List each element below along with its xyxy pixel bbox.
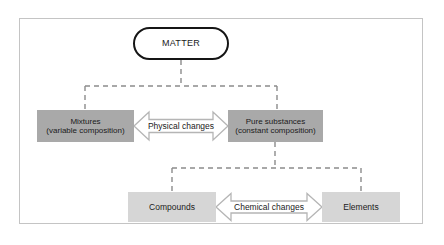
node-compounds[interactable] xyxy=(128,192,216,222)
node-elements[interactable] xyxy=(322,192,400,222)
connector-pure-branch xyxy=(172,142,361,192)
node-pure-substances[interactable] xyxy=(228,110,323,142)
physical-changes-arrow xyxy=(134,112,228,140)
node-mixtures[interactable] xyxy=(37,110,134,142)
connector-matter-branch xyxy=(85,60,277,110)
chemical-changes-arrow xyxy=(216,194,322,221)
node-matter[interactable] xyxy=(133,27,229,60)
diagram-canvas: MATTER Mixtures (variable composition) P… xyxy=(0,0,444,245)
